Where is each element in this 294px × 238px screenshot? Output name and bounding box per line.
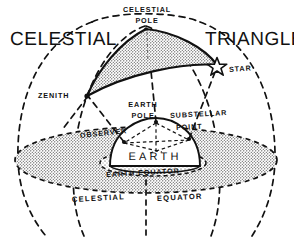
label-earth: EARTH [128,152,181,163]
title-celestial: CELESTIAL [10,30,117,49]
earth-pole-point [154,120,158,124]
celestial-triangle-diagram: CELESTIAL TRIANGLE CELESTIAL POLE STAR Z… [0,0,294,238]
label-zenith: ZENITH [38,92,69,99]
label-celestial-pole-line2: POLE [135,17,158,24]
line-zenith-lower [62,96,88,130]
title-triangle: TRIANGLE [205,30,294,49]
label-celestial-pole-line1: CELESTIAL [123,6,171,13]
celestial-pole-vertex [144,27,148,31]
substellar-point [187,137,191,141]
label-substellar-line2: POINT [176,123,203,132]
label-earth-pole-line2: POLE [131,112,154,119]
zenith-vertex [84,93,89,98]
sphere-arc-outer-right [200,22,275,236]
label-star: STAR [229,64,252,73]
label-earth-pole-line1: EARTH [128,101,157,108]
observer-point [122,140,126,144]
sphere-arc-outer-left [18,22,92,236]
